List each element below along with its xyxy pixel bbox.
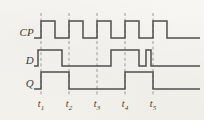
waveform-d xyxy=(34,50,200,66)
waveform-q xyxy=(34,72,200,89)
time-label-subscript: 2 xyxy=(69,104,73,112)
time-label-subscript: 3 xyxy=(97,104,101,112)
time-label-subscript: 1 xyxy=(41,104,45,112)
time-label-subscript: 5 xyxy=(153,104,157,112)
time-label-t3: t3 xyxy=(94,99,100,109)
time-label-t5: t5 xyxy=(150,99,156,109)
time-label-t2: t2 xyxy=(66,99,72,109)
signal-traces xyxy=(34,21,200,89)
time-label-subscript: 4 xyxy=(125,104,129,112)
time-label-t1: t1 xyxy=(38,99,44,109)
time-label-t4: t4 xyxy=(122,99,128,109)
timing-diagram-figure: CP D Q t1t2t3t4t5 xyxy=(0,0,204,120)
waveform-plot xyxy=(0,0,204,120)
waveform-cp xyxy=(34,21,200,38)
